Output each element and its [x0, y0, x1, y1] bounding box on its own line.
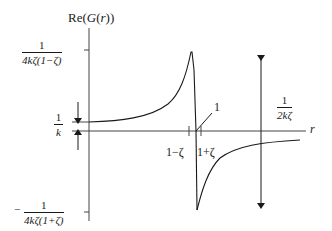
- response-curve-transition: [196, 131, 197, 210]
- span-label: 1 2kζ: [277, 95, 292, 121]
- x-axis-title: r: [310, 123, 315, 135]
- response-curve-positive: [89, 52, 196, 131]
- static-value-numerator: 1: [56, 112, 62, 124]
- static-value-denominator: k: [56, 125, 61, 138]
- min-value-label: 1 4kζ(1+ζ): [24, 200, 64, 226]
- unit-label: 1: [214, 101, 220, 113]
- min-value-numerator: 1: [41, 200, 47, 212]
- y-axis-title: Re(G(r)): [68, 11, 114, 24]
- label-1-plus-zeta: 1+ζ: [197, 146, 215, 158]
- max-value-label: 1 4kζ(1−ζ): [22, 40, 62, 66]
- min-value-sign: −: [14, 204, 20, 215]
- y-axis-title-suffix: )): [106, 10, 115, 25]
- y-axis-title-func: G: [87, 10, 96, 25]
- y-axis-title-prefix: Re(: [68, 10, 87, 25]
- max-value-denominator: 4kζ(1−ζ): [22, 53, 62, 66]
- static-value-label: 1 k: [54, 112, 63, 138]
- span-denominator: 2kζ: [277, 108, 292, 121]
- span-numerator: 1: [282, 95, 288, 107]
- max-value-numerator: 1: [39, 40, 45, 52]
- re-g-diagram: Re(G(r)) 1 4kζ(1−ζ) 1 k − 1 4kζ(1+ζ) 1−ζ…: [0, 0, 332, 231]
- unit-pointer-line: [196, 113, 212, 131]
- label-1-minus-zeta: 1−ζ: [166, 146, 184, 158]
- min-value-denominator: 4kζ(1+ζ): [24, 213, 64, 226]
